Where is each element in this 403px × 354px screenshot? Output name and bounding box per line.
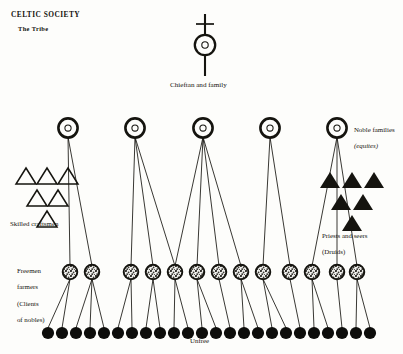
open-triangle: [16, 168, 36, 184]
noble-circle: [58, 118, 77, 137]
freemen-unfree-links: [48, 279, 370, 328]
unfree-circle: [112, 327, 124, 339]
label-unfree: Unfree: [190, 337, 209, 345]
open-triangle: [37, 168, 57, 184]
unfree-circle: [210, 327, 222, 339]
label-freemen-line3: (Clients: [17, 300, 39, 307]
filled-triangle: [342, 172, 362, 188]
freemen-farmer-circles: [63, 265, 365, 280]
freemen-circle: [305, 265, 320, 280]
unfree-circle: [294, 327, 306, 339]
page-title: CELTIC SOCIETY: [11, 11, 80, 20]
unfree-circle: [140, 327, 152, 339]
freemen-circle: [212, 265, 227, 280]
unfree-circle: [350, 327, 362, 339]
unfree-circle: [336, 327, 348, 339]
filled-triangle: [353, 194, 373, 210]
label-druids-line1: Priests and seers: [322, 232, 368, 239]
freemen-circle: [63, 265, 78, 280]
unfree-circle: [84, 327, 96, 339]
noble-family-circles: [58, 118, 346, 137]
label-noble-line1: Noble families: [354, 126, 395, 133]
noble-circle: [193, 118, 212, 137]
unfree-circle: [168, 327, 180, 339]
noble-circle: [125, 118, 144, 137]
diagram-canvas: [0, 0, 403, 354]
unfree-circle: [266, 327, 278, 339]
noble-circle: [327, 118, 346, 137]
unfree-circle: [364, 327, 376, 339]
noble-circle: [260, 118, 279, 137]
unfree-circle: [70, 327, 82, 339]
label-noble-line2: (equites): [354, 142, 378, 149]
freemen-circle: [256, 265, 271, 280]
label-noble-families: Noble families (equites): [347, 118, 395, 159]
label-druids-line2: (Druids): [322, 248, 345, 255]
filled-triangle: [364, 172, 384, 188]
open-triangle: [27, 190, 47, 206]
unfree-circle: [154, 327, 166, 339]
celtic-society-diagram: CELTIC SOCIETY The Tribe Chieftan and fa…: [0, 0, 403, 354]
page-subtitle: The Tribe: [18, 25, 49, 33]
open-triangle: [48, 190, 68, 206]
label-chieftain: Chieftan and family: [170, 81, 227, 89]
unfree-circle: [56, 327, 68, 339]
freemen-circle: [350, 265, 365, 280]
unfree-circle: [280, 327, 292, 339]
freemen-circle: [168, 265, 183, 280]
unfree-circle: [126, 327, 138, 339]
unfree-circle: [322, 327, 334, 339]
freemen-circle: [234, 265, 249, 280]
label-freemen-line4: of nobles): [17, 316, 45, 323]
freemen-circle: [85, 265, 100, 280]
freemen-circle: [283, 265, 298, 280]
unfree-circle: [252, 327, 264, 339]
druid-triangles: [320, 172, 384, 231]
unfree-circle: [238, 327, 250, 339]
label-freemen-farmers: Freemen farmers (Clients of nobles): [10, 259, 45, 332]
label-skilled-craftsmen: Skilled craftsmen: [10, 220, 58, 228]
freemen-circle: [124, 265, 139, 280]
label-freemen-line1: Freemen: [17, 267, 41, 274]
noble-freemen-links: [68, 137, 357, 266]
label-freemen-line2: farmers: [17, 283, 38, 290]
freemen-circle: [190, 265, 205, 280]
unfree-circle: [224, 327, 236, 339]
label-priests-and-seers: Priests and seers (Druids): [315, 224, 367, 265]
unfree-circle: [308, 327, 320, 339]
freemen-circle: [330, 265, 345, 280]
chieftain-symbol: [195, 14, 215, 76]
freemen-circle: [146, 265, 161, 280]
unfree-circle: [98, 327, 110, 339]
filled-triangle: [331, 194, 351, 210]
